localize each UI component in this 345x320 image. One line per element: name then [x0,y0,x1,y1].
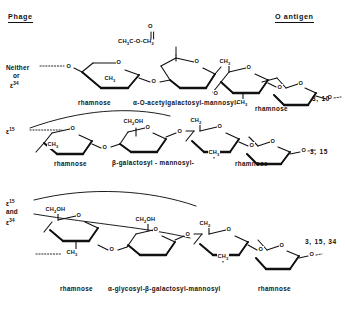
caption-row-2-right: rhamnose [235,160,268,167]
row3-ring-a-methyl: CH3 [66,249,78,257]
caption-row-3-right: rhamnose [258,285,291,292]
phage-conversion-diagram: Phage O antigen O CH3C-O-CH2 O O CH3 O O… [0,0,345,320]
caption-row-1-middle: α-O-acetylgalactosyl-mannosyl- [133,99,239,106]
serotype-row-3: 3, 15, 34 [305,238,337,245]
row1-ring-b-oxygen: O [194,58,200,64]
caption-row-1-right: rhamnose [255,105,288,112]
row3-glycosidic-oxygen-2: O [185,231,191,237]
row1-linker-oxygen: O [66,63,72,69]
row3-ring-a-oxygen: O [76,212,82,218]
row2-ring-c-methylene: CH2 [190,117,202,125]
acetyl-carbonyl-oxygen: O [148,23,153,29]
row1-ring-d-oxygen: O [298,80,304,86]
row3-ring-c-oxygen: O [226,226,232,232]
header-o-antigen: O antigen [275,12,314,23]
row3-ring-b-hydroxymethyl: CH2OH [135,216,156,224]
row3-ring-d-oxygen: O [279,242,285,248]
row3-ring-b-oxygen: O [153,226,159,232]
row2-glycosidic-oxygen-2: O [177,128,183,134]
row2-ring-b-oxygen: O [145,124,151,130]
row2-ring-d-methyl: CH3 [208,149,220,157]
phage-label-row-3: ε15andε34 [6,198,18,227]
row1-glycosidic-oxygen-2: O [213,90,219,96]
row2-terminal-oxygen: O [301,147,307,153]
row1-ring-a-oxygen: O [116,59,122,65]
row2-ring-b-hydroxymethyl: CH2OH [123,118,144,126]
caption-row-3-left: rhamnose [60,285,93,292]
row2-ring-c-oxygen: O [217,123,223,129]
serotype-row-2: 3, 15 [310,148,328,155]
row3-glycosidic-oxygen-1: O [109,246,115,252]
row2-ring-a-oxygen: O [70,125,76,131]
caption-row-3-middle: α-glycosyl-β-galactosyl-mannosyl [108,285,221,292]
row3-ring-c-methylene: CH2 [199,220,211,228]
row3-ring-d-methyl: CH3 [217,253,229,261]
row1-ring-a-methyl: CH3 [104,75,116,83]
row2-ring-d-oxygen: O [270,138,276,144]
row1-ring-c-oxygen: O [246,64,252,70]
row1-glycosidic-oxygen-1: O [151,78,157,84]
phage-label-row-1: Neither or ε34 [6,64,29,91]
phage-label-row-2: ε15 [6,126,15,136]
serotype-row-1: 3, 10 [312,95,330,102]
header-phage: Phage [8,12,33,23]
row1-ring-c-methyl: CH3 [219,58,231,66]
caption-row-1-left: rhamnose [78,99,111,106]
row1-glycosidic-oxygen-3: O [277,84,283,90]
caption-row-2-middle: β-galactosyl - mannosyl- [112,159,194,166]
row3-terminal-oxygen: O [309,251,315,257]
row2-glycosidic-oxygen-3: O [249,142,255,148]
row2-ring-a-methyl: CH3 [47,141,59,149]
row3-ring-a-hydroxymethyl: CH2OH [45,206,66,214]
acetyl-group-formula: CH3C-O-CH2 [118,38,154,46]
caption-row-2-left: rhamnose [54,160,87,167]
row2-glycosidic-oxygen-1: O [102,144,108,150]
row3-glycosidic-oxygen-3: O [258,246,264,252]
